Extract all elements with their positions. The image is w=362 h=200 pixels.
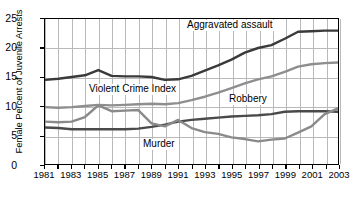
- x-tick-mark: [326, 165, 327, 169]
- x-tick-label: 1987: [109, 170, 139, 180]
- x-tick-mark: [111, 165, 112, 169]
- chart-container: Female Percent of Juvenile Arrests 05101…: [0, 0, 362, 200]
- y-tick-label: 15: [0, 71, 17, 82]
- x-tick-label: 2003: [324, 170, 354, 180]
- x-tick-mark: [218, 165, 219, 169]
- series-label: Violent Crime Index: [88, 84, 177, 95]
- series-label: Robbery: [228, 94, 268, 105]
- y-tick-label: 5: [0, 130, 17, 141]
- x-tick-mark: [245, 165, 246, 169]
- gridline-vertical: [340, 19, 341, 164]
- y-axis-title: Female Percent of Juvenile Arrests: [13, 0, 24, 167]
- x-tick-mark: [299, 165, 300, 169]
- x-tick-mark: [138, 165, 139, 169]
- x-tick-label: 1989: [136, 170, 166, 180]
- series-label: Murder: [142, 139, 176, 150]
- series-label: Aggravated assault: [186, 20, 274, 31]
- y-tick-label: 10: [0, 101, 17, 112]
- x-tick-mark: [272, 165, 273, 169]
- x-tick-mark: [57, 165, 58, 169]
- y-tick-label: 20: [0, 42, 17, 53]
- x-tick-mark: [165, 165, 166, 169]
- y-tick-label: 0: [0, 160, 17, 171]
- x-tick-mark: [192, 165, 193, 169]
- y-tick-label: 25: [0, 13, 17, 24]
- x-tick-label: 1985: [83, 170, 113, 180]
- x-tick-label: 1997: [244, 170, 274, 180]
- x-tick-label: 1993: [190, 170, 220, 180]
- series-line: [45, 31, 338, 80]
- x-tick-mark: [84, 165, 85, 169]
- x-tick-label: 2001: [297, 170, 327, 180]
- x-tick-label: 1983: [56, 170, 86, 180]
- x-tick-label: 1999: [270, 170, 300, 180]
- x-tick-label: 1981: [29, 170, 59, 180]
- x-tick-label: 1991: [163, 170, 193, 180]
- x-tick-label: 1995: [217, 170, 247, 180]
